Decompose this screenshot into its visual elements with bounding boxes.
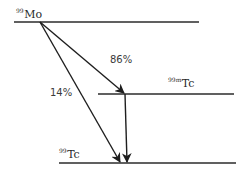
branch-label-14: 14%: [50, 88, 72, 98]
mass-number: 99: [59, 147, 67, 154]
branch-label-86: 86%: [110, 55, 132, 65]
mass-number: 99: [16, 7, 24, 14]
label-tc99m: 99mTc: [168, 78, 194, 89]
element-symbol: Tc: [67, 148, 80, 161]
mass-number: 99m: [168, 76, 181, 83]
label-tc99: 99Tc: [59, 149, 80, 160]
decay-scheme-svg: [0, 0, 250, 174]
decay-scheme-diagram: 99Mo 99mTc 99Tc 86% 14%: [0, 0, 250, 174]
element-symbol: Tc: [182, 77, 195, 90]
element-symbol: Mo: [24, 8, 42, 21]
label-mo99: 99Mo: [16, 9, 42, 20]
arrow-tc99m-to-tc99: [125, 94, 127, 162]
